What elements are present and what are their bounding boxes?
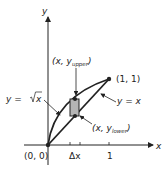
area-between-curves-diagram: y x (0, 0) Δx 1 (1, 1) (x, yupper) (x, y… — [0, 0, 165, 173]
origin-point — [46, 143, 50, 147]
delta-x-label: Δx — [69, 151, 81, 161]
lower-label-arrow — [80, 116, 92, 124]
y-axis-label: y — [41, 6, 48, 16]
tick-one-label: 1 — [107, 151, 113, 161]
area-element-rectangle — [70, 99, 79, 116]
upper-point — [73, 97, 77, 101]
sqrt-radicand: x — [35, 94, 42, 104]
x-axis-label: x — [155, 141, 162, 151]
end-point-label: (1, 1) — [116, 74, 140, 84]
lower-point — [73, 114, 77, 118]
upper-point-label: (x, yupper) — [52, 56, 92, 68]
lower-point-label: (x, ylower) — [92, 123, 130, 134]
origin-label: (0, 0) — [24, 151, 48, 161]
sqrt-label-arrow — [44, 100, 60, 115]
linear-curve-label: y = x — [116, 96, 142, 106]
end-point — [107, 77, 111, 81]
linear-label-arrow — [101, 94, 116, 102]
sqrt-curve-label: y = — [5, 94, 22, 104]
